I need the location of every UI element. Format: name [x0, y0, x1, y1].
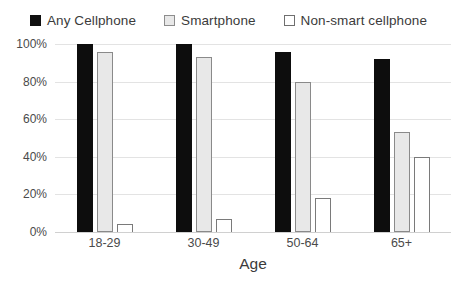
x-axis-label-30-49: 30-49 — [154, 236, 253, 254]
legend-swatch-icon-smartphone — [164, 15, 175, 26]
legend-label-non-smart-cellphone: Non-smart cellphone — [301, 13, 427, 28]
bar-group-50-64 — [253, 44, 352, 232]
bar-any-cellphone-65-plus — [374, 59, 390, 232]
bar-any-cellphone-30-49 — [176, 44, 192, 232]
chart-legend: Any Cellphone Smartphone Non-smart cellp… — [0, 8, 457, 32]
y-axis-tick-labels: 100% 80% 60% 40% 20% 0% — [0, 44, 50, 232]
bar-any-cellphone-50-64 — [275, 52, 291, 232]
bar-group-65-plus — [352, 44, 451, 232]
bar-non-smart-cellphone-30-49 — [216, 219, 232, 232]
bar-smartphone-18-29 — [97, 52, 113, 232]
gridline-baseline-0 — [55, 232, 451, 233]
bar-groups — [55, 44, 451, 232]
bar-smartphone-65-plus — [394, 132, 410, 232]
legend-item-non-smart-cellphone: Non-smart cellphone — [284, 13, 427, 28]
bar-group-18-29 — [55, 44, 154, 232]
y-axis-tick-40: 40% — [23, 150, 47, 164]
legend-label-any-cellphone: Any Cellphone — [47, 13, 136, 28]
legend-swatch-icon-non-smart-cellphone — [284, 15, 295, 26]
y-axis-tick-60: 60% — [23, 112, 47, 126]
bar-non-smart-cellphone-18-29 — [117, 224, 133, 232]
bar-non-smart-cellphone-50-64 — [315, 198, 331, 232]
plot-area — [55, 44, 451, 232]
legend-swatch-icon-any-cellphone — [30, 15, 41, 26]
legend-item-any-cellphone: Any Cellphone — [30, 13, 136, 28]
x-axis-category-labels: 18-29 30-49 50-64 65+ — [55, 236, 451, 254]
x-axis-label-18-29: 18-29 — [55, 236, 154, 254]
bar-non-smart-cellphone-65-plus — [414, 157, 430, 232]
y-axis-tick-100: 100% — [16, 37, 47, 51]
y-axis-tick-80: 80% — [23, 75, 47, 89]
bar-smartphone-50-64 — [295, 82, 311, 232]
bar-group-30-49 — [154, 44, 253, 232]
y-axis-tick-20: 20% — [23, 187, 47, 201]
bar-chart: Any Cellphone Smartphone Non-smart cellp… — [0, 0, 457, 283]
x-axis-title: Age — [55, 255, 451, 277]
y-axis-tick-0: 0% — [30, 225, 47, 239]
bar-smartphone-30-49 — [196, 57, 212, 232]
x-axis-label-50-64: 50-64 — [253, 236, 352, 254]
plot-wrapper: 100% 80% 60% 40% 20% 0% — [0, 44, 457, 239]
bar-any-cellphone-18-29 — [77, 44, 93, 232]
legend-label-smartphone: Smartphone — [181, 13, 256, 28]
legend-item-smartphone: Smartphone — [164, 13, 256, 28]
x-axis-label-65-plus: 65+ — [352, 236, 451, 254]
